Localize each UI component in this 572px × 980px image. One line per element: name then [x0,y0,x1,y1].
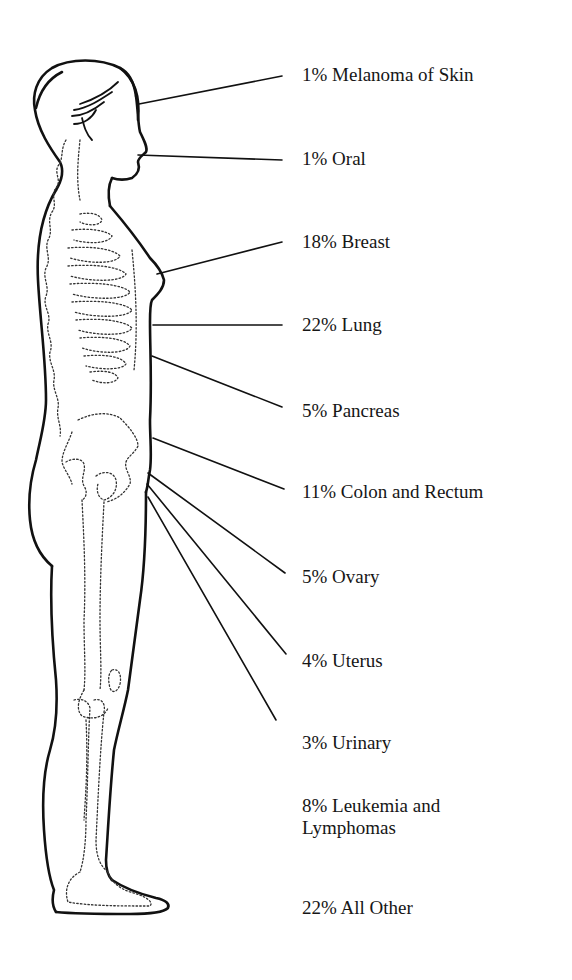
leader-ovary [148,473,285,573]
leader-pancreas [152,356,282,407]
leader-melanoma [139,76,282,104]
label-all-other: 22% All Other [302,897,413,919]
label-uterus: 4% Uterus [302,650,383,672]
leader-lines [138,76,286,720]
label-melanoma: 1% Melanoma of Skin [302,64,474,86]
leader-breast [157,242,282,274]
female-body-figure [0,0,572,980]
label-ovary: 5% Ovary [302,566,380,588]
leader-oral [138,155,282,160]
label-oral: 1% Oral [302,148,366,170]
leader-uterus [147,484,286,654]
hair-strokes [72,82,118,140]
label-breast: 18% Breast [302,231,390,253]
leader-colon [153,438,284,489]
label-colon-rectum: 11% Colon and Rectum [302,481,483,503]
label-pancreas: 5% Pancreas [302,400,400,422]
skeleton-dotted [45,140,151,906]
label-urinary: 3% Urinary [302,732,391,754]
label-leukemia-lymphomas: 8% Leukemia and Lymphomas [302,795,482,839]
label-lung: 22% Lung [302,314,382,336]
leader-urinary [148,497,276,720]
